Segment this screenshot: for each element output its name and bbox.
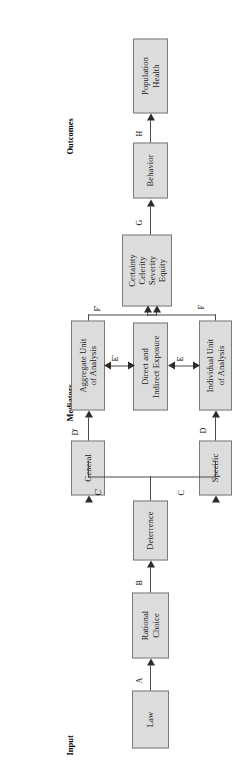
node-mechanisms-line-1: Celerity [137, 254, 147, 287]
node-deterrence-line-0: Deterrence [145, 511, 155, 549]
edge-E-arrowhead-down [193, 361, 200, 369]
edge-Cp-rise [88, 476, 151, 477]
edge-C-drop [150, 476, 206, 477]
edge-Cp-line [88, 460, 89, 477]
node-individual-unit: Individual Unit of Analysis [199, 320, 206, 410]
edge-Ep-arrowhead-up [104, 361, 111, 369]
node-law-line-0: Law [145, 711, 155, 726]
node-exposure-line-0: Direct and [140, 335, 150, 397]
node-mechanisms-line-3: Equity [157, 254, 167, 287]
edge-B-label: B [135, 580, 144, 585]
edge-Fp-arrowhead [153, 305, 161, 312]
edge-Ep-label: E' [111, 355, 120, 361]
node-aggregate-unit-line-0: Aggregate Unit [78, 338, 88, 392]
section-label-input: Input [65, 735, 75, 755]
edge-Fp-label: F' [93, 305, 102, 311]
edge-A-line [150, 665, 151, 690]
edge-E-arrowhead-up [168, 361, 175, 369]
node-rational-choice-line-1: Choice [151, 610, 161, 640]
edge-B-line [150, 567, 151, 592]
node-mechanisms-line-0: Certainty [127, 254, 137, 287]
node-rational-choice: Rational Choice [132, 592, 169, 658]
edge-A-label: A [135, 677, 144, 683]
node-mechanisms: Certainty Celerity Severity Equity [122, 234, 172, 306]
edge-Fp-drop [88, 314, 157, 315]
edge-G-arrowhead [147, 199, 155, 206]
edge-Dp-label: D' [71, 428, 80, 435]
edge-Dp-arrowhead [85, 410, 93, 417]
node-deterrence: Deterrence [133, 500, 168, 560]
edge-E-label: E [176, 356, 185, 361]
node-rational-choice-line-0: Rational [140, 610, 150, 640]
node-mechanisms-line-2: Severity [147, 254, 157, 287]
node-population-health: Population Health [133, 38, 168, 113]
node-law: Law [132, 690, 169, 748]
edge-G-label: G [135, 219, 144, 225]
edge-H-arrowhead [147, 113, 155, 120]
node-behavior: Behavior [133, 142, 168, 198]
node-exposure: Direct and Indirect Exposure [133, 322, 168, 410]
node-population-health-line-0: Population [140, 57, 150, 95]
node-aggregate-unit-line-1: of Analysis [88, 338, 98, 392]
node-population-health-line-1: Health [151, 57, 161, 95]
node-aggregate-unit: Aggregate Unit of Analysis [71, 320, 105, 410]
edge-C-stub [150, 476, 151, 500]
edge-A-arrowhead [147, 658, 155, 665]
edge-G-line [150, 206, 151, 234]
edge-C-label: C [177, 490, 186, 495]
edge-Cp-arrowhead [85, 495, 93, 502]
edge-D-label: D [199, 427, 206, 433]
node-individual-unit-line-0: Individual Unit [205, 338, 206, 392]
edge-Cp-label: C' [94, 488, 103, 495]
node-exposure-line-1: Indirect Exposure [151, 335, 161, 397]
edge-Dp-line [88, 417, 89, 440]
edge-B-arrowhead [147, 560, 155, 567]
diagram-canvas: Input Mediators Outcomes Law Rational Ch… [57, 0, 206, 771]
section-label-outcomes: Outcomes [65, 118, 75, 154]
edge-Ep-arrowhead-down [128, 361, 135, 369]
edge-F-label: F [197, 305, 206, 309]
edge-H-label: H [135, 130, 144, 136]
node-specific: Specific [199, 440, 206, 495]
node-behavior-line-0: Behavior [145, 154, 155, 186]
edge-H-line [150, 120, 151, 142]
edge-F-arrowhead [144, 305, 152, 312]
